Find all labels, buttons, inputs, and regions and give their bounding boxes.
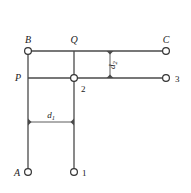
- dimension-d1-tick-left: [28, 119, 32, 126]
- node-1-terminal[interactable]: [71, 169, 78, 176]
- node-a-label: A: [13, 167, 21, 178]
- diagram-canvas: d1 d2 B Q C P 2 3 A 1: [0, 0, 191, 193]
- node-c-terminal[interactable]: [163, 48, 170, 55]
- node-2-label: 2: [81, 84, 86, 94]
- node-p-label: P: [14, 72, 21, 83]
- node-1-label: 1: [82, 168, 87, 178]
- schematic-diagram: d1 d2 B Q C P 2 3 A 1: [0, 0, 191, 193]
- dimension-d2-tick-top: [107, 51, 114, 55]
- dimension-d2-label-subscript: 2: [111, 60, 118, 64]
- node-2-junction[interactable]: [71, 75, 78, 82]
- dimension-d1-label: d1: [47, 110, 55, 121]
- dimension-d1-label-subscript: 1: [52, 114, 55, 121]
- node-b-terminal[interactable]: [25, 48, 32, 55]
- dimension-d1-tick-right: [71, 119, 75, 126]
- dimension-d2-label: d2: [107, 60, 118, 69]
- node-c-label: C: [163, 34, 170, 45]
- node-a-terminal[interactable]: [25, 169, 32, 176]
- node-q-label: Q: [70, 34, 78, 45]
- dimension-d2-tick-bottom: [107, 75, 114, 79]
- node-3-label: 3: [175, 74, 180, 84]
- node-3-terminal[interactable]: [163, 75, 170, 82]
- node-b-label: B: [25, 34, 31, 45]
